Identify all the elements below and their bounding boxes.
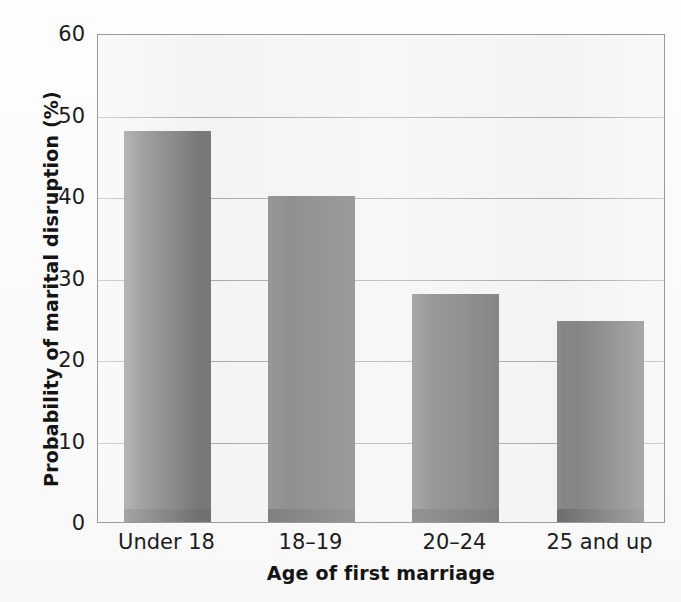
bar-chart-figure: 60 50 40 30 20 10 0 Probability of marit… (0, 0, 681, 602)
plot-area (97, 34, 665, 523)
bar-base-band (412, 509, 499, 522)
bar-25-and-up[interactable] (557, 321, 644, 522)
bar-base-band (268, 509, 355, 522)
bar-shading (124, 131, 211, 522)
bar-shading (412, 294, 499, 522)
x-tick-label-under-18: Under 18 (118, 530, 215, 554)
bar-shading (268, 196, 355, 522)
bar-20-24[interactable] (412, 294, 499, 522)
x-tick-label-20-24: 20–24 (423, 530, 487, 554)
bar-under-18[interactable] (124, 131, 211, 522)
gridline-50 (98, 117, 664, 118)
x-axis-title: Age of first marriage (97, 562, 665, 584)
bar-18-19[interactable] (268, 196, 355, 522)
bar-base-band (124, 509, 211, 522)
x-axis-tick-labels: Under 18 18–19 20–24 25 and up (97, 530, 665, 560)
x-tick-label-25-and-up: 25 and up (546, 530, 652, 554)
y-axis-title: Probability of marital disruption (%) (40, 29, 62, 549)
x-tick-label-18-19: 18–19 (279, 530, 343, 554)
bar-base-band (557, 509, 644, 522)
bar-shading (557, 321, 644, 522)
